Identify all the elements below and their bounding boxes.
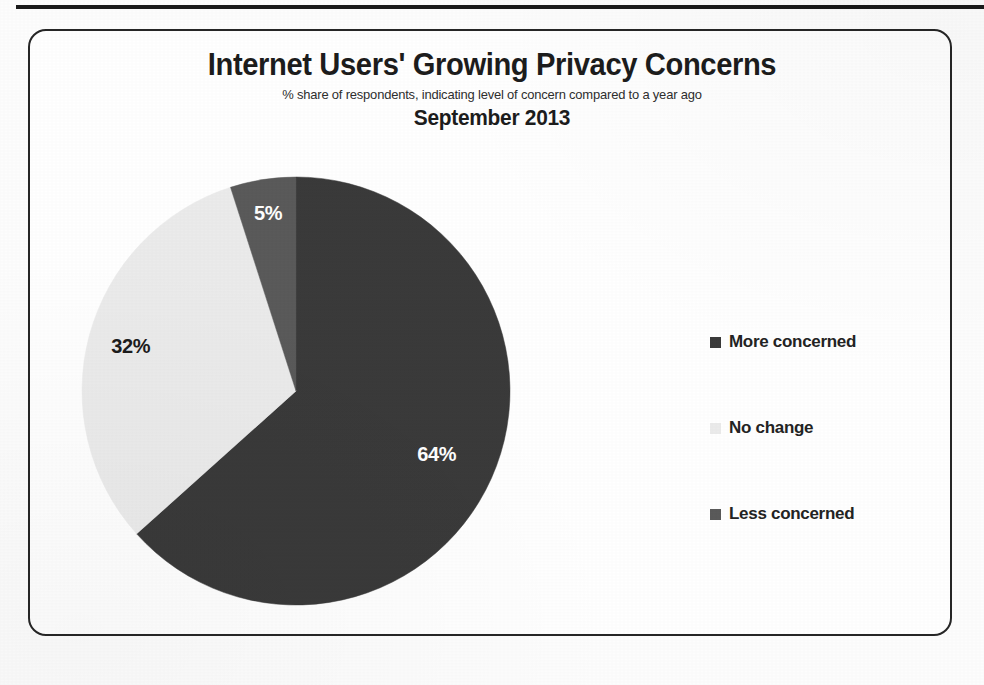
legend-swatch-icon-more-concerned: [710, 337, 721, 348]
top-divider-rule: [16, 5, 984, 9]
pie-label-less-concerned: 5%: [254, 202, 283, 224]
title-block: Internet Users' Growing Privacy Concerns…: [30, 49, 954, 131]
chart-subtitle: % share of respondents, indicating level…: [48, 87, 935, 102]
pie-slice-group: [82, 177, 510, 605]
chart-inner-area: Internet Users' Growing Privacy Concerns…: [30, 31, 950, 634]
legend-item-more-concerned[interactable]: More concerned: [710, 299, 940, 385]
legend-swatch-icon-no-change: [710, 423, 721, 434]
legend-item-less-concerned[interactable]: Less concerned: [710, 471, 940, 557]
chart-legend: More concerned No change Less concerned: [710, 299, 940, 557]
legend-label-more-concerned: More concerned: [729, 332, 856, 352]
pie-chart-svg: 64%32%5%: [76, 171, 516, 611]
chart-frame-border: Internet Users' Growing Privacy Concerns…: [28, 29, 952, 636]
pie-chart: 64%32%5%: [76, 171, 516, 611]
legend-label-less-concerned: Less concerned: [729, 504, 854, 524]
legend-swatch-icon-less-concerned: [710, 509, 721, 520]
chart-title: Internet Users' Growing Privacy Concerns: [58, 49, 927, 82]
chart-page: Internet Users' Growing Privacy Concerns…: [0, 0, 984, 685]
chart-period: September 2013: [53, 105, 931, 131]
legend-item-no-change[interactable]: No change: [710, 385, 940, 471]
pie-label-no-change: 32%: [111, 335, 151, 357]
pie-label-more-concerned: 64%: [417, 443, 457, 465]
legend-label-no-change: No change: [729, 418, 813, 438]
